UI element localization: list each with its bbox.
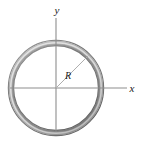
figure-canvas: y x R <box>0 0 144 144</box>
radius-label: R <box>64 70 71 81</box>
x-axis-label: x <box>129 82 135 94</box>
ring-figure: y x R <box>0 0 144 144</box>
y-axis-label: y <box>54 4 60 16</box>
